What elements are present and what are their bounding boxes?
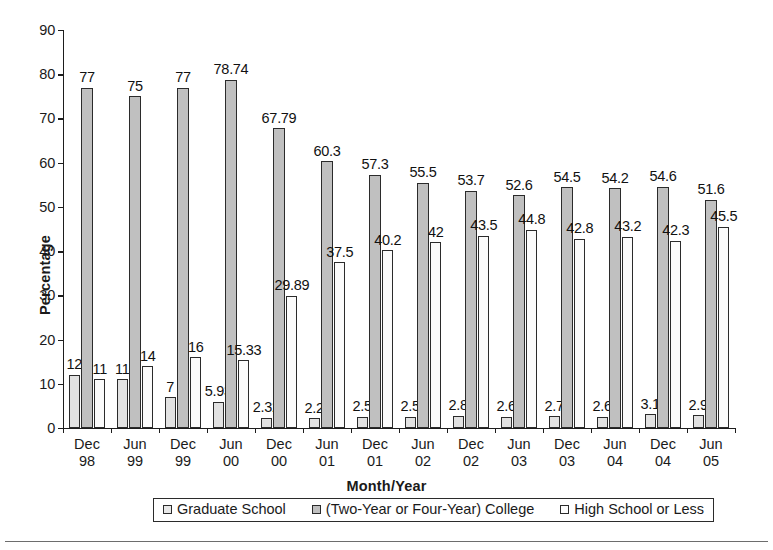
y-tick-label-90: 90 <box>39 23 55 38</box>
x-category-line: Jun <box>411 436 434 453</box>
y-tick-label-80: 80 <box>39 67 55 82</box>
bar-group: 3.154.642.3 <box>639 30 687 428</box>
x-tick <box>591 428 592 433</box>
bar[interactable] <box>334 262 345 428</box>
bar-value-label: 78.74 <box>214 62 249 77</box>
legend-item[interactable]: High School or Less <box>560 502 704 517</box>
bar[interactable] <box>718 227 729 428</box>
page-divider-rule <box>5 541 768 542</box>
bar-group: 127711 <box>63 30 111 428</box>
x-category-line: Jun <box>315 436 338 453</box>
x-category-line: Jun <box>507 436 530 453</box>
bar[interactable] <box>225 80 236 428</box>
x-category-line: 03 <box>554 453 580 470</box>
bar[interactable] <box>670 241 681 428</box>
bar-value-label: 53.7 <box>457 173 484 188</box>
bar-group: 2.853.743.5 <box>447 30 495 428</box>
x-category-line: Jun <box>123 436 146 453</box>
bar-group: 2.654.243.2 <box>591 30 639 428</box>
bar[interactable] <box>622 237 633 428</box>
x-tick <box>399 428 400 433</box>
bar[interactable] <box>549 416 560 428</box>
bar[interactable] <box>478 236 489 428</box>
x-category-line: 02 <box>458 453 484 470</box>
bar[interactable] <box>597 417 608 428</box>
x-category-label: Dec02 <box>458 436 484 470</box>
x-tick <box>495 428 496 433</box>
bar[interactable] <box>382 250 393 428</box>
bar[interactable] <box>94 379 105 428</box>
bar[interactable] <box>417 183 428 428</box>
bar[interactable] <box>238 360 249 428</box>
bar-group: 117514 <box>111 30 159 428</box>
legend-item[interactable]: (Two-Year or Four-Year) College <box>312 502 534 517</box>
bar[interactable] <box>501 417 512 428</box>
bar[interactable] <box>705 200 716 428</box>
bar[interactable] <box>430 242 441 428</box>
bar[interactable] <box>129 96 140 428</box>
bar[interactable] <box>693 415 704 428</box>
bar[interactable] <box>81 88 92 429</box>
bar[interactable] <box>190 357 201 428</box>
bar[interactable] <box>513 195 524 428</box>
bar-value-label: 45.5 <box>710 209 737 224</box>
bar[interactable] <box>453 416 464 428</box>
x-category-line: 03 <box>507 453 530 470</box>
bar-value-label: 51.6 <box>697 182 724 197</box>
x-category-label: Dec01 <box>362 436 388 470</box>
bar-value-label: 44.8 <box>518 212 545 227</box>
bar[interactable] <box>526 230 537 428</box>
bar[interactable] <box>645 414 656 428</box>
legend-swatch-icon <box>163 505 172 514</box>
y-tick-label-30: 30 <box>39 288 55 303</box>
chart-legend: Graduate School(Two-Year or Four-Year) C… <box>153 498 714 522</box>
bar[interactable] <box>574 239 585 428</box>
bar[interactable] <box>357 417 368 428</box>
y-tick-label-40: 40 <box>39 244 55 259</box>
x-tick <box>255 428 256 433</box>
x-axis-title: Month/Year <box>0 478 773 494</box>
bar-value-label: 11 <box>93 362 107 377</box>
bar-value-label: 60.3 <box>313 144 340 159</box>
bar-value-label: 75 <box>127 79 143 94</box>
x-category-line: 04 <box>603 453 626 470</box>
bar[interactable] <box>165 397 176 428</box>
bar[interactable] <box>261 418 272 428</box>
legend-label: (Two-Year or Four-Year) College <box>326 502 534 517</box>
x-category-line: Dec <box>362 436 388 453</box>
bar[interactable] <box>405 417 416 428</box>
bar[interactable] <box>321 161 332 428</box>
bar[interactable] <box>213 402 224 428</box>
bar-group: 2.555.542 <box>399 30 447 428</box>
x-category-line: Dec <box>458 436 484 453</box>
x-category-label: Jun04 <box>603 436 626 470</box>
legend-swatch-icon <box>312 505 321 514</box>
bar-value-label: 77 <box>175 70 191 85</box>
x-category-line: 99 <box>170 453 196 470</box>
x-tick <box>303 428 304 433</box>
x-category-line: Dec <box>650 436 676 453</box>
x-category-line: Jun <box>699 436 722 453</box>
bar[interactable] <box>369 175 380 428</box>
x-category-line: 05 <box>699 453 722 470</box>
bar[interactable] <box>286 296 297 428</box>
x-category-line: Dec <box>74 436 100 453</box>
x-category-label: Jun02 <box>411 436 434 470</box>
bar[interactable] <box>177 88 188 429</box>
legend-item[interactable]: Graduate School <box>163 502 286 517</box>
bar[interactable] <box>142 366 153 428</box>
bar[interactable] <box>69 375 80 428</box>
bar[interactable] <box>309 418 320 428</box>
y-tick-label-0: 0 <box>47 421 55 436</box>
x-tick <box>639 428 640 433</box>
plot-area: 0102030405060708090 127711117514777165.9… <box>63 30 735 428</box>
x-category-label: Dec03 <box>554 436 580 470</box>
x-category-line: 00 <box>219 453 242 470</box>
x-category-label: Jun00 <box>219 436 242 470</box>
x-category-label: Jun99 <box>123 436 146 470</box>
bar-value-label: 57.3 <box>361 157 388 172</box>
bar-value-label: 11 <box>115 362 129 377</box>
bar-chart-figure: Percentage 0102030405060708090 127711117… <box>0 0 773 550</box>
bar[interactable] <box>117 379 128 428</box>
x-category-line: 99 <box>123 453 146 470</box>
